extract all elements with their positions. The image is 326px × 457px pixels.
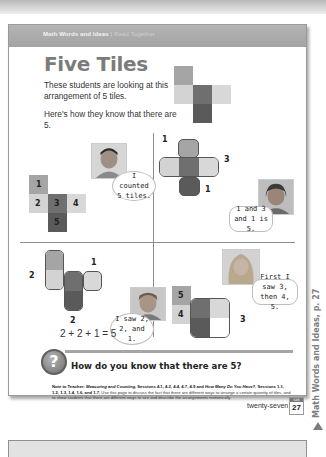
page-number: 27 [290, 402, 303, 414]
speech-text: I saw 2, 2, and 1. [114, 314, 150, 344]
speech-bubble: I saw 2, 2, and 1. [110, 313, 154, 345]
tile [179, 158, 198, 176]
note-and: and [196, 384, 203, 389]
page-header: Math Words and Ideas|Read Together [9, 25, 306, 47]
tile-label: 4 [73, 199, 79, 208]
question-rule [65, 350, 293, 353]
tile [193, 85, 212, 104]
intro-text: These students are looking at this arran… [44, 80, 184, 138]
tile-label: 3 [54, 199, 60, 208]
tile-group-bottom [179, 177, 200, 196]
tile: 1 [29, 175, 48, 194]
group-label: 2 [29, 271, 35, 280]
tile [191, 318, 210, 337]
tile-label: 5 [54, 218, 60, 227]
tile [210, 299, 229, 318]
equation: 2 + 2 + 1 = 5 [60, 328, 116, 339]
question-mark-icon: ? [41, 349, 67, 375]
tile-label: 1 [36, 180, 42, 189]
group-label: 3 [224, 155, 230, 164]
tile [65, 272, 82, 291]
tile [174, 66, 193, 85]
previous-page-edge [0, 0, 326, 14]
tile [65, 291, 82, 310]
group-label: 5 [178, 291, 184, 300]
tile [174, 85, 193, 104]
tile-group-square [190, 298, 230, 338]
page-title: Five Tiles [44, 52, 148, 76]
group-label: 1 [205, 185, 211, 194]
tile [210, 318, 229, 337]
speech-bubble: 1 and 3 and 1 is 5. [229, 206, 273, 232]
note-unit: Measuring and Counting, [86, 384, 136, 389]
group-label: 2 [70, 316, 76, 325]
tile: 5 [48, 213, 67, 232]
group-label: 1 [91, 258, 97, 267]
group-label: 4 [178, 310, 184, 319]
tile [199, 158, 218, 176]
speech-bubble: First I saw 3, then 4, 5. [252, 279, 298, 305]
tile [46, 251, 63, 270]
teacher-note: Note to Teacher: Measuring and Counting,… [52, 384, 292, 401]
tile-group-left-column [45, 250, 64, 290]
speech-bubble: I counted 5 tiles. [112, 171, 156, 201]
note-sessions: Sessions 4.1, 4.2, 4.4, 4.7, 4.9 [137, 384, 195, 389]
tile [193, 104, 212, 123]
intro-paragraph: These students are looking at this arran… [44, 80, 184, 102]
student-page: Math Words and Ideas|Read Together Five … [8, 24, 307, 396]
header-text: Math Words and Ideas|Read Together [43, 31, 155, 37]
tile-group-mid-column [64, 271, 83, 311]
tile-arrangement [174, 66, 234, 126]
triangle-up-icon [313, 422, 323, 430]
speech-text: First I saw 3, then 4, 5. [254, 272, 296, 312]
page-number-badge: SAB 27 [289, 397, 304, 415]
panel-divider-horizontal [20, 242, 295, 243]
tile: 4 [67, 194, 86, 213]
intro-paragraph: Here's how they know that there are 5. [44, 109, 184, 131]
header-section: Math Words and Ideas [43, 31, 109, 37]
tile [191, 299, 210, 318]
tile [212, 85, 231, 104]
tile-group-top [178, 139, 199, 158]
tile: 3 [48, 194, 67, 213]
group-label: 3 [240, 315, 246, 324]
tile [160, 158, 179, 176]
tile-group-middle-row [159, 157, 219, 177]
tile: 2 [29, 194, 48, 213]
tile: 5 [172, 286, 191, 305]
tile-group-single [83, 271, 102, 291]
tile-label: 2 [35, 199, 41, 208]
note-label: Note to Teacher: [52, 384, 85, 389]
next-page-edge [8, 440, 307, 457]
group-label: 1 [162, 135, 168, 144]
header-subsection: Read Together [114, 31, 155, 37]
page-number-word: twenty-seven [247, 402, 288, 409]
side-tab-reference: Math Words and Ideas, p. 27 [312, 289, 321, 418]
speech-text: I counted 5 tiles. [116, 171, 152, 201]
tile [46, 270, 63, 289]
discussion-question: How do you know that there are 5? [71, 361, 241, 371]
tile: 4 [172, 305, 191, 324]
speech-text: 1 and 3 and 1 is 5. [232, 204, 270, 234]
note-unit: How Many Do You Have?, [205, 384, 256, 389]
